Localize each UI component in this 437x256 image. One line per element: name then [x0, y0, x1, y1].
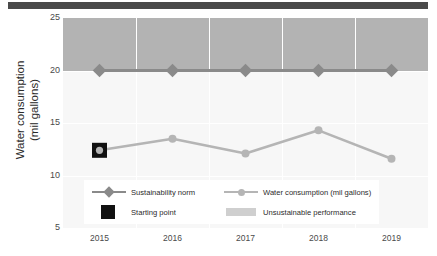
y-tick-25: 25: [30, 13, 60, 22]
chart-legend: Sustainability norm Water consumption (m…: [84, 180, 379, 224]
legend-label-starting-point: Starting point: [131, 208, 176, 217]
plot-area: Sustainability norm Water consumption (m…: [63, 18, 428, 228]
legend-key-band-icon: [224, 205, 258, 219]
x-tick-2019: 2019: [362, 233, 422, 243]
y-tick-15: 15: [30, 118, 60, 127]
legend-label-water-consumption: Water consumption (mil gallons): [263, 188, 371, 197]
legend-item-unsustainable-performance: Unsustainable performance: [224, 203, 356, 221]
starting-point-inner-dot: [96, 147, 103, 154]
y-tick-5: 5: [30, 223, 60, 232]
legend-key-line-diamond-icon: [92, 185, 126, 199]
legend-item-starting-point: Starting point: [92, 203, 176, 221]
x-tick-2018: 2018: [289, 233, 349, 243]
y-tick-10: 10: [30, 171, 60, 180]
legend-item-water-consumption: Water consumption (mil gallons): [224, 183, 371, 201]
legend-label-sustainability-norm: Sustainability norm: [131, 188, 195, 197]
legend-key-line-circle-icon: [224, 185, 258, 199]
x-tick-2015: 2015: [70, 233, 130, 243]
legend-label-unsustainable-performance: Unsustainable performance: [263, 208, 356, 217]
chart-figure: Water consumption (mil gallons) 25 20 15…: [0, 0, 437, 256]
y-tick-20: 20: [30, 66, 60, 75]
legend-key-square-icon: [92, 205, 126, 219]
y-axis-title-line1: Water consumption: [13, 25, 27, 195]
y-axis-ticks: 25 20 15 10 5: [28, 0, 60, 256]
vertical-gridline: [428, 18, 429, 228]
x-tick-2017: 2017: [216, 233, 276, 243]
top-rule-divider: [8, 2, 428, 9]
legend-item-sustainability-norm: Sustainability norm: [92, 183, 195, 201]
x-tick-2016: 2016: [143, 233, 203, 243]
